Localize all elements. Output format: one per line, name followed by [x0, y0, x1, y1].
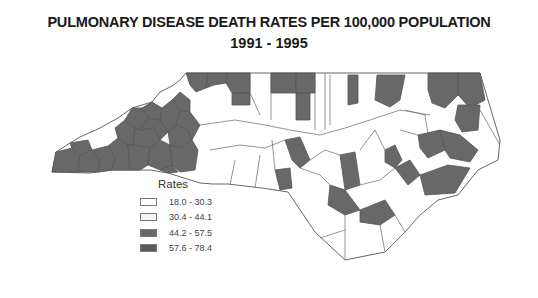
county-dark	[348, 75, 358, 105]
legend-swatch	[140, 229, 157, 237]
legend-label: 57.6 - 78.4	[169, 243, 212, 253]
county-dark	[52, 148, 80, 172]
county-dark	[296, 93, 310, 120]
county-dark	[232, 93, 250, 105]
legend-title: Rates	[158, 178, 260, 190]
legend-swatch	[140, 244, 157, 252]
legend-item: 57.6 - 78.4	[140, 241, 260, 257]
county-dark	[128, 145, 150, 170]
legend-label: 30.4 - 44.1	[169, 212, 212, 222]
legend-swatch	[140, 198, 157, 206]
legend-item: 44.2 - 57.5	[140, 225, 260, 241]
north-carolina-county-map	[0, 0, 538, 298]
legend-item: 18.0 - 30.3	[140, 194, 260, 210]
county-dark	[296, 73, 315, 93]
county-dark	[271, 73, 296, 93]
legend-swatch	[140, 213, 157, 221]
legend: Rates 18.0 - 30.3 30.4 - 44.1 44.2 - 57.…	[140, 178, 260, 256]
legend-item: 30.4 - 44.1	[140, 210, 260, 226]
legend-label: 44.2 - 57.5	[169, 228, 212, 238]
legend-label: 18.0 - 30.3	[169, 197, 212, 207]
